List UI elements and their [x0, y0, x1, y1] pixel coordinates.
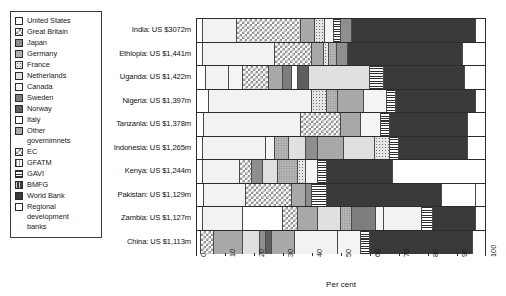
- bar-segment[interactable]: [352, 19, 476, 42]
- bar-segment[interactable]: [298, 207, 318, 230]
- bar-segment[interactable]: [375, 137, 389, 160]
- bar-segment[interactable]: [301, 19, 315, 42]
- legend-item-bmfg[interactable]: BMFG: [15, 180, 98, 190]
- bar-segment[interactable]: [463, 43, 485, 66]
- legend-item-de[interactable]: Germany: [15, 49, 98, 59]
- bar-segment[interactable]: [384, 66, 465, 89]
- bar-segment[interactable]: [309, 66, 369, 89]
- bar-segment[interactable]: [209, 90, 313, 113]
- bar-segment[interactable]: [292, 184, 306, 207]
- legend-item-nl[interactable]: Netherlands: [15, 71, 98, 81]
- bar-segment[interactable]: [348, 43, 463, 66]
- bar-segment[interactable]: [298, 160, 307, 183]
- legend-item-wb[interactable]: World Bank: [15, 191, 98, 201]
- bar-segment[interactable]: [329, 43, 336, 66]
- bar-segment[interactable]: [476, 90, 485, 113]
- bar-segment[interactable]: [370, 231, 474, 255]
- bar-segment[interactable]: [197, 113, 204, 136]
- legend-item-it[interactable]: Italy: [15, 115, 98, 125]
- legend-item-gfatm[interactable]: GFATM: [15, 158, 98, 168]
- bar-segment[interactable]: [468, 137, 485, 160]
- bar-segment[interactable]: [312, 184, 326, 207]
- bar-row[interactable]: [197, 231, 485, 255]
- bar-segment[interactable]: [325, 19, 334, 42]
- bar-segment[interactable]: [246, 184, 292, 207]
- legend-item-gb[interactable]: Great Britain: [15, 27, 98, 37]
- bar-row[interactable]: [197, 113, 485, 137]
- bar-segment[interactable]: [442, 184, 477, 207]
- legend-item-se[interactable]: Sweden: [15, 93, 98, 103]
- bar-segment[interactable]: [361, 231, 370, 255]
- bar-segment[interactable]: [352, 207, 375, 230]
- bar-segment[interactable]: [381, 113, 390, 136]
- bar-segment[interactable]: [306, 137, 318, 160]
- bar-segment[interactable]: [396, 90, 477, 113]
- bar-segment[interactable]: [390, 113, 468, 136]
- bar-segment[interactable]: [476, 19, 485, 42]
- bar-segment[interactable]: [364, 90, 387, 113]
- bar-row[interactable]: [197, 160, 485, 184]
- bar-segment[interactable]: [468, 113, 485, 136]
- bar-segment[interactable]: [197, 90, 209, 113]
- bar-segment[interactable]: [263, 160, 277, 183]
- bar-segment[interactable]: [203, 207, 243, 230]
- bar-segment[interactable]: [266, 137, 275, 160]
- bar-segment[interactable]: [204, 113, 300, 136]
- bar-segment[interactable]: [283, 66, 292, 89]
- bar-segment[interactable]: [289, 137, 306, 160]
- bar-row[interactable]: [197, 184, 485, 208]
- bar-segment[interactable]: [338, 90, 364, 113]
- bar-row[interactable]: [197, 207, 485, 231]
- bar-segment[interactable]: [278, 160, 298, 183]
- legend-item-ca[interactable]: Canada: [15, 82, 98, 92]
- legend-item-rdb[interactable]: Regional development banks: [15, 202, 98, 232]
- bar-segment[interactable]: [275, 43, 312, 66]
- bar-segment[interactable]: [384, 207, 421, 230]
- bar-segment[interactable]: [393, 160, 485, 183]
- bar-segment[interactable]: [269, 66, 283, 89]
- bar-segment[interactable]: [327, 160, 393, 183]
- legend-item-other[interactable]: Other govemimnets: [15, 126, 98, 146]
- bar-segment[interactable]: [399, 137, 468, 160]
- bar-segment[interactable]: [197, 66, 206, 89]
- bar-segment[interactable]: [327, 90, 339, 113]
- bar-segment[interactable]: [201, 231, 214, 255]
- bar-row[interactable]: [197, 19, 485, 43]
- bar-segment[interactable]: [465, 66, 485, 89]
- bar-segment[interactable]: [473, 231, 485, 255]
- bar-segment[interactable]: [204, 184, 246, 207]
- bar-segment[interactable]: [203, 19, 238, 42]
- legend-item-no[interactable]: Norway: [15, 104, 98, 114]
- bar-segment[interactable]: [318, 207, 341, 230]
- bar-segment[interactable]: [203, 160, 240, 183]
- bar-segment[interactable]: [476, 184, 485, 207]
- bar-segment[interactable]: [334, 19, 341, 42]
- bar-segment[interactable]: [312, 43, 324, 66]
- bar-segment[interactable]: [306, 160, 318, 183]
- bar-segment[interactable]: [237, 19, 300, 42]
- bar-segment[interactable]: [327, 184, 442, 207]
- bar-segment[interactable]: [301, 113, 341, 136]
- bar-segment[interactable]: [315, 19, 325, 42]
- bar-segment[interactable]: [337, 43, 349, 66]
- bar-segment[interactable]: [344, 137, 376, 160]
- bar-segment[interactable]: [298, 66, 310, 89]
- bar-segment[interactable]: [390, 137, 399, 160]
- bar-segment[interactable]: [283, 207, 297, 230]
- bar-row[interactable]: [197, 137, 485, 161]
- bar-segment[interactable]: [370, 66, 384, 89]
- bar-segment[interactable]: [252, 160, 264, 183]
- bar-segment[interactable]: [433, 207, 476, 230]
- legend-item-ec[interactable]: EC: [15, 147, 98, 157]
- bar-segment[interactable]: [240, 160, 252, 183]
- bar-segment[interactable]: [243, 66, 269, 89]
- bar-segment[interactable]: [318, 160, 327, 183]
- bar-segment[interactable]: [341, 207, 353, 230]
- bar-row[interactable]: [197, 66, 485, 90]
- bar-segment[interactable]: [341, 19, 353, 42]
- bar-segment[interactable]: [203, 137, 266, 160]
- bar-segment[interactable]: [422, 207, 434, 230]
- bar-segment[interactable]: [361, 113, 381, 136]
- bar-segment[interactable]: [318, 137, 344, 160]
- bar-segment[interactable]: [206, 66, 229, 89]
